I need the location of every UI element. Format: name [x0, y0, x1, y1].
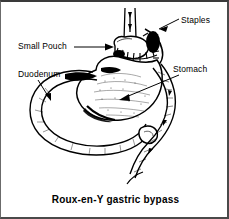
- figure-caption: Roux-en-Y gastric bypass: [1, 194, 229, 205]
- label-staples: Staples: [181, 15, 210, 25]
- roux-en-y-illustration: [1, 2, 229, 219]
- label-small-pouch: Small Pouch: [18, 41, 67, 51]
- stomach-remnant: [77, 56, 162, 122]
- leader-staples: [159, 19, 179, 29]
- figure-panel: Staples Small Pouch Duodenum Stomach Rou…: [0, 0, 229, 219]
- label-duodenum: Duodenum: [18, 69, 60, 79]
- arrowhead-small-pouch: [105, 44, 114, 51]
- label-stomach: Stomach: [173, 64, 207, 74]
